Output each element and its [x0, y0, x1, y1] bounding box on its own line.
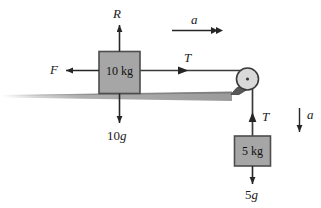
- weight-10g-value: 10: [107, 128, 120, 143]
- weight-5g-label: 5g: [245, 188, 258, 201]
- pulley-wheel: [237, 68, 259, 90]
- weight-10g-g: g: [120, 128, 127, 143]
- tension-right-arrowhead: [249, 112, 257, 122]
- tension-right-label: T: [262, 110, 269, 123]
- friction-force-label: F: [50, 63, 58, 76]
- acceleration-top-label: a: [191, 13, 198, 26]
- tension-top-label: T: [184, 51, 191, 64]
- block-5kg-label: 5 kg: [235, 145, 271, 157]
- normal-force-label: R: [113, 7, 121, 20]
- tension-top-arrowhead: [178, 67, 189, 75]
- acceleration-right-label: a: [307, 108, 314, 121]
- physics-diagram: R F T T a a 10g 5g 10 kg 5 kg: [0, 0, 321, 208]
- weight-10g-label: 10g: [107, 129, 127, 142]
- acceleration-top-arrow: [172, 27, 223, 34]
- block-10kg-label: 10 kg: [99, 65, 140, 77]
- rope: [140, 71, 253, 138]
- weight-5g-g: g: [252, 187, 259, 202]
- diagram-canvas: [0, 0, 321, 208]
